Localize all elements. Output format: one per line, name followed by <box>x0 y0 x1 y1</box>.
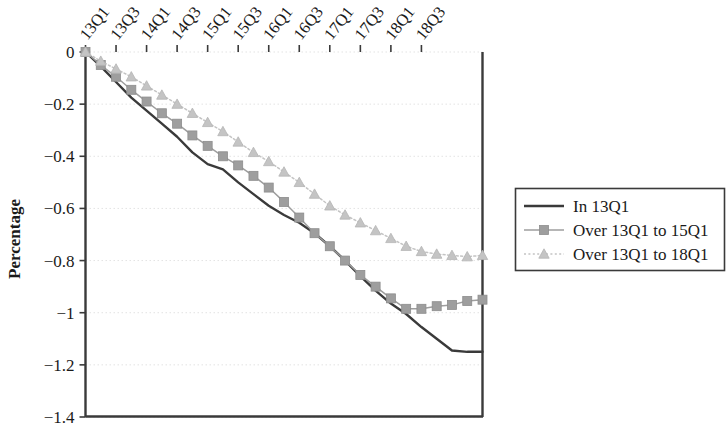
series-3 <box>80 47 487 261</box>
y-tick-label: −0.8 <box>44 252 75 271</box>
series-marker-triangle <box>294 177 304 186</box>
x-tick-label: 15Q1 <box>198 3 236 44</box>
series-marker-triangle <box>111 64 121 73</box>
x-tick-label: 13Q1 <box>76 3 114 44</box>
x-axis-ticks: 13Q113Q314Q114Q315Q115Q316Q116Q317Q117Q3… <box>76 3 449 52</box>
series-marker-triangle <box>141 81 151 90</box>
plot-frame <box>86 52 484 417</box>
series-marker-triangle <box>340 210 350 219</box>
series-marker-square <box>310 229 319 238</box>
series-marker-square <box>127 85 136 94</box>
series-marker-triangle <box>157 90 167 99</box>
series-marker-square <box>218 152 227 161</box>
series-marker-square <box>249 171 258 180</box>
gridlines <box>86 52 483 417</box>
series-marker-square <box>371 282 380 291</box>
chart-canvas: 0−0.2−0.4−0.6−0.8−1−1.2−1.4 13Q113Q314Q1… <box>0 0 726 429</box>
series-marker-triangle <box>477 250 487 259</box>
series-marker-square <box>173 119 182 128</box>
series-marker-square <box>402 304 411 313</box>
series-marker-square <box>386 294 395 303</box>
y-tick-label: −1 <box>56 304 74 323</box>
series-marker-square <box>203 141 212 150</box>
data-series-group <box>80 47 487 352</box>
y-tick-label: −0.6 <box>44 199 75 218</box>
x-tick-label: 17Q1 <box>320 3 358 44</box>
legend-label: In 13Q1 <box>573 197 629 216</box>
series-2 <box>81 48 487 314</box>
series-marker-square <box>478 295 487 304</box>
series-marker-triangle <box>218 126 228 135</box>
legend-marker-square <box>540 226 549 235</box>
y-axis-ticks: 0−0.2−0.4−0.6−0.8−1−1.2−1.4 <box>44 43 86 427</box>
series-marker-triangle <box>386 233 396 242</box>
x-tick-label: 16Q3 <box>289 3 327 44</box>
series-marker-square <box>432 302 441 311</box>
series-marker-triangle <box>355 218 365 227</box>
series-marker-triangle <box>233 137 243 146</box>
series-marker-square <box>280 197 289 206</box>
chart-legend: In 13Q1Over 13Q1 to 15Q1Over 13Q1 to 18Q… <box>516 189 725 271</box>
series-marker-square <box>447 300 456 309</box>
x-tick-label: 16Q1 <box>259 3 297 44</box>
series-marker-triangle <box>279 167 289 176</box>
x-tick-label: 17Q3 <box>351 3 389 44</box>
series-marker-triangle <box>248 147 258 156</box>
series-marker-square <box>142 97 151 106</box>
y-tick-label: 0 <box>66 43 75 62</box>
series-marker-square <box>295 213 304 222</box>
y-axis-title: Percentage <box>5 199 24 279</box>
series-line <box>86 52 483 309</box>
series-marker-square <box>417 304 426 313</box>
series-marker-triangle <box>172 99 182 108</box>
series-marker-square <box>234 161 243 170</box>
series-marker-triangle <box>431 249 441 258</box>
y-tick-label: −0.2 <box>44 95 75 114</box>
legend-label: Over 13Q1 to 18Q1 <box>573 245 709 264</box>
series-marker-triangle <box>325 201 335 210</box>
x-tick-label: 18Q1 <box>381 3 419 44</box>
series-marker-square <box>188 131 197 140</box>
series-marker-triangle <box>309 189 319 198</box>
legend-label: Over 13Q1 to 15Q1 <box>573 221 709 240</box>
series-marker-triangle <box>202 117 212 126</box>
series-marker-square <box>157 109 166 118</box>
series-marker-triangle <box>126 72 136 81</box>
y-tick-label: −0.4 <box>44 147 75 166</box>
x-tick-label: 13Q3 <box>106 3 144 44</box>
series-marker-square <box>463 296 472 305</box>
series-marker-square <box>325 242 334 251</box>
x-tick-label: 18Q3 <box>412 3 450 44</box>
series-marker-square <box>356 270 365 279</box>
series-marker-triangle <box>370 225 380 234</box>
series-marker-square <box>264 183 273 192</box>
series-marker-square <box>112 72 121 81</box>
series-marker-triangle <box>264 156 274 165</box>
x-tick-label: 14Q3 <box>167 3 205 44</box>
series-marker-triangle <box>401 241 411 250</box>
x-tick-label: 15Q3 <box>228 3 266 44</box>
y-tick-label: −1.2 <box>44 356 75 375</box>
series-marker-square <box>341 256 350 265</box>
y-tick-label: −1.4 <box>44 408 75 427</box>
series-marker-triangle <box>187 108 197 117</box>
chart-figure: 0−0.2−0.4−0.6−0.8−1−1.2−1.4 13Q113Q314Q1… <box>0 0 726 429</box>
x-tick-label: 14Q1 <box>137 3 175 44</box>
